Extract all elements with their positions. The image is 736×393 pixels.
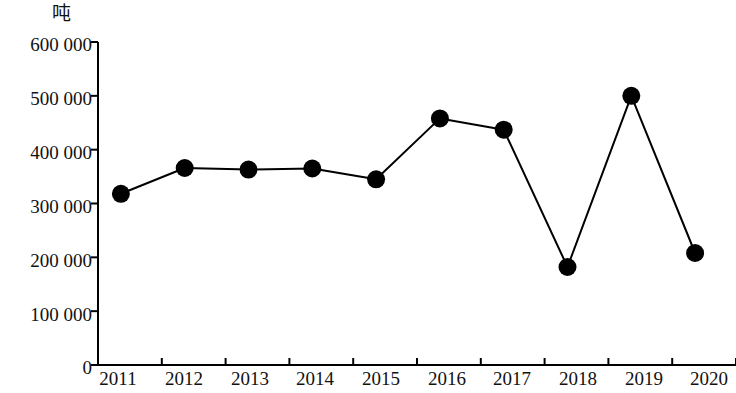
plot-area [0,0,736,393]
data-point-2013 [240,161,258,179]
data-point-2020 [686,244,704,262]
data-point-2012 [176,159,194,177]
data-line [121,96,695,267]
x-axis-ticks [98,358,736,365]
data-point-2019 [622,87,640,105]
data-point-2011 [112,185,130,203]
data-point-2016 [431,109,449,127]
data-point-markers [112,87,704,276]
data-point-2018 [559,258,577,276]
data-point-2014 [303,160,321,178]
axis-lines [98,42,736,365]
y-axis-ticks [91,42,98,365]
line-chart: 吨 600 000 500 000 400 000 300 000 200 00… [0,0,736,393]
data-point-2017 [495,121,513,139]
data-point-2015 [367,170,385,188]
